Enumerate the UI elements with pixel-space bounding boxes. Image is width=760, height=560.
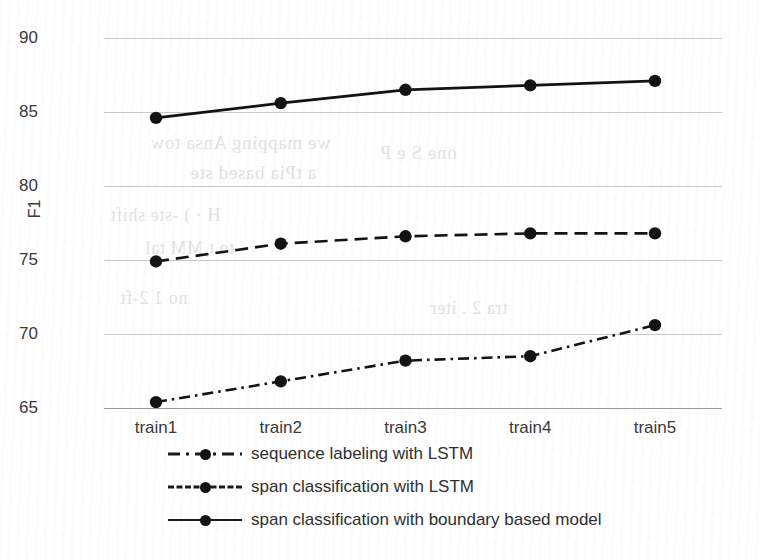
y-tick-label: 85 [0, 102, 38, 122]
legend-dot-icon [200, 515, 211, 526]
data-point-marker[interactable] [649, 319, 661, 331]
plot-area [104, 38, 722, 408]
x-tick-label: train5 [634, 418, 677, 438]
data-point-marker[interactable] [399, 354, 411, 366]
legend-label: span classification with boundary based … [251, 510, 602, 530]
y-tick-label: 75 [0, 250, 38, 270]
data-point-marker[interactable] [275, 238, 287, 250]
series-lines [104, 38, 722, 408]
x-tick-label: train3 [384, 418, 427, 438]
legend-label: span classification with LSTM [251, 477, 474, 497]
legend-swatch-solid-icon [168, 509, 242, 531]
y-tick-label: 90 [0, 28, 38, 48]
data-point-marker[interactable] [399, 230, 411, 242]
f1-line-chart: F1 908580757065 train1train2train3train4… [0, 0, 760, 560]
y-axis-title: F1 [26, 200, 44, 219]
legend-swatch-dashed-icon [168, 476, 242, 498]
data-point-marker[interactable] [649, 227, 661, 239]
legend-item[interactable]: span classification with LSTM [168, 476, 602, 498]
legend-swatch-dashdot-icon [168, 443, 242, 465]
y-tick-label: 80 [0, 176, 38, 196]
legend-dot-icon [200, 449, 211, 460]
legend-label: sequence labeling with LSTM [251, 444, 473, 464]
y-tick-label: 70 [0, 324, 38, 344]
data-point-marker[interactable] [399, 84, 411, 96]
data-point-marker[interactable] [524, 350, 536, 362]
data-point-marker[interactable] [524, 79, 536, 91]
y-tick-label: 65 [0, 398, 38, 418]
x-axis-line [104, 408, 722, 409]
data-point-marker[interactable] [275, 97, 287, 109]
x-tick-label: train2 [259, 418, 302, 438]
data-point-marker[interactable] [649, 75, 661, 87]
legend-item[interactable]: span classification with boundary based … [168, 509, 602, 531]
legend-dot-icon [200, 482, 211, 493]
data-point-marker[interactable] [524, 227, 536, 239]
chart-legend: sequence labeling with LSTMspan classifi… [168, 443, 602, 531]
data-point-marker[interactable] [275, 375, 287, 387]
x-tick-label: train4 [509, 418, 552, 438]
legend-item[interactable]: sequence labeling with LSTM [168, 443, 602, 465]
data-point-marker[interactable] [150, 396, 162, 408]
data-point-marker[interactable] [150, 255, 162, 267]
data-point-marker[interactable] [150, 112, 162, 124]
x-tick-label: train1 [135, 418, 178, 438]
